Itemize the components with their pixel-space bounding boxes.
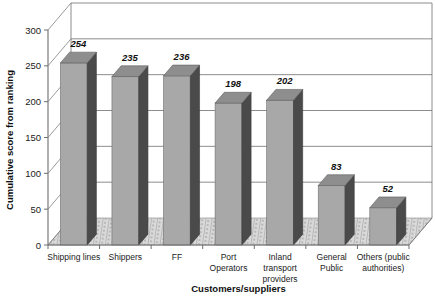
bar-value-label-7: 52 [383, 183, 394, 194]
y-axis-title: Cumulative score from ranking [4, 70, 15, 210]
y-tick-label-250: 250 [25, 60, 41, 71]
x-category-label-4: Port [221, 252, 237, 262]
y-tick-label-200: 200 [25, 96, 41, 107]
bar-value-label-3: 236 [173, 51, 191, 62]
bar-front-face [60, 63, 87, 245]
y-tick-label-100: 100 [25, 168, 41, 179]
x-category-label-1: Shipping lines [47, 252, 100, 262]
bar-side-face [242, 92, 251, 245]
bar-value-label-1: 254 [69, 38, 87, 49]
y-tick-label-50: 50 [30, 204, 41, 215]
bar-1[interactable] [60, 52, 96, 245]
x-category-label-2: Shippers [109, 252, 143, 262]
bar-side-face [190, 65, 199, 245]
x-category-label-5: Inland [268, 252, 291, 262]
bar-4[interactable] [215, 92, 251, 245]
bar-value-label-4: 198 [225, 78, 242, 89]
x-category-label-7: authorities) [362, 263, 404, 273]
bar-front-face [318, 186, 345, 245]
x-category-label-4: Operators [210, 263, 248, 273]
bar-front-face [215, 103, 242, 245]
chart-canvas: 2542352361982028352050100150200250300Shi… [0, 0, 435, 301]
x-category-label-6: General [317, 252, 347, 262]
y-tick-label-0: 0 [36, 240, 41, 251]
y-tick-label-150: 150 [25, 132, 41, 143]
bar-front-face [370, 208, 397, 245]
x-category-label-7: Others (public [357, 252, 411, 262]
bar-5[interactable] [267, 89, 303, 245]
bar-6[interactable] [318, 175, 354, 245]
bar-side-face [139, 66, 148, 245]
bar-value-label-2: 235 [121, 52, 139, 63]
bar-side-face [293, 89, 302, 245]
bar-front-face [112, 77, 139, 245]
x-category-label-6: Public [320, 263, 344, 273]
bar-3[interactable] [164, 65, 200, 245]
bar-2[interactable] [112, 66, 148, 245]
x-category-label-5: transport [263, 263, 297, 273]
x-axis-title: Customers/suppliers [191, 283, 286, 294]
bar-value-label-5: 202 [276, 75, 294, 86]
depth-connector-300 [48, 3, 71, 30]
bar-front-face [267, 100, 294, 245]
bar-side-face [345, 175, 354, 245]
bar-value-label-6: 83 [331, 161, 342, 172]
x-category-label-3: FF [172, 252, 182, 262]
bar-7[interactable] [370, 197, 406, 245]
y-tick-label-300: 300 [25, 25, 41, 36]
bar-side-face [87, 52, 96, 245]
bar-chart-figure: 2542352361982028352050100150200250300Shi… [0, 0, 435, 301]
bar-front-face [164, 76, 191, 245]
